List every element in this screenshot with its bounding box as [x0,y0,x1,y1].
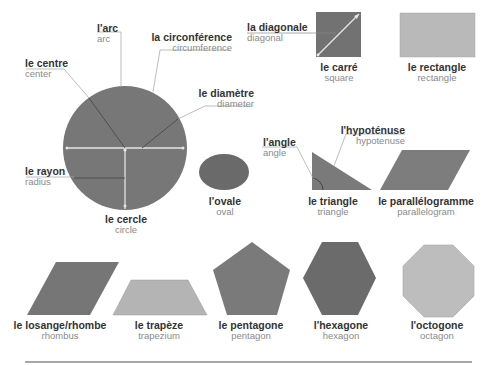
label-en: parallelogram [378,207,474,218]
rhombus-shape [27,262,119,315]
square-shape [316,12,361,57]
label-en: diameter [199,99,254,110]
caption-rectangle: le rectangle rectangle [408,61,466,84]
label-en: trapezium [135,331,183,342]
rectangle-shape [400,13,475,57]
label-en: hypotenuse [341,136,405,147]
label-diameter: le diamètre diameter [199,87,254,110]
octagon-shape [403,245,474,317]
caption-square: le carré square [320,61,357,84]
label-en: oval [209,207,241,218]
label-arc: l'arc arc [97,22,118,45]
label-radius: le rayon radius [25,165,65,188]
caption-parallelogram: le parallélogramme parallelogram [378,195,474,218]
label-en: radius [25,177,65,188]
label-en: rhombus [14,331,107,342]
label-en: diagonal [247,33,308,44]
label-en: pentagon [219,331,284,342]
label-en: center [25,69,68,80]
label-hypotenuse: l'hypoténuse hypotenuse [341,124,405,147]
caption-oval: l'ovale oval [209,195,241,218]
caption-pentagon: le pentagone pentagon [219,319,284,342]
label-en: hexagon [314,331,368,342]
label-en: rectangle [408,73,466,84]
label-en: square [320,73,357,84]
caption-trapezium: le trapèze trapezium [135,319,183,342]
label-en: circumference [151,43,232,54]
caption-rhombus: le losange/rhombe rhombus [14,319,107,342]
circle-shape [63,86,187,210]
label-angle: l'angle angle [263,136,296,159]
label-circumference: la circonférence circumference [151,31,232,54]
label-center: le centre center [25,57,68,80]
oval-shape [199,154,249,190]
label-en: circle [105,225,147,236]
label-en: octagon [411,331,464,342]
triangle-shape [312,152,372,190]
label-en: triangle [308,207,358,218]
label-en: angle [263,148,296,159]
shapes-canvas [0,0,491,365]
label-diagonal: la diagonale diagonal [247,21,308,44]
caption-circle: le cercle circle [105,213,147,236]
parallelogram-shape [380,150,470,190]
caption-octagon: l'octogone octagon [411,319,464,342]
trapezium-shape [113,280,207,315]
pentagon-shape [213,242,290,315]
hexagon-shape [303,242,376,315]
label-en: arc [97,34,118,45]
caption-triangle: le triangle triangle [308,195,358,218]
caption-hexagon: l'hexagone hexagon [314,319,368,342]
